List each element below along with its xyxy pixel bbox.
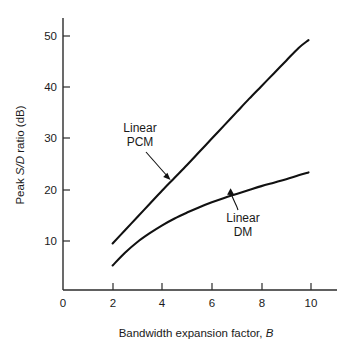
x-axis-title: Bandwidth expansion factor, B bbox=[119, 327, 274, 339]
y-axis-title-part1: Peak bbox=[14, 175, 26, 204]
y-tick-label-10: 10 bbox=[44, 235, 57, 247]
y-axis-title-italic: S/D bbox=[14, 156, 26, 175]
y-tick-label-50: 50 bbox=[44, 30, 57, 42]
x-tick-label-8: 8 bbox=[259, 297, 265, 309]
x-axis-title-italic: B bbox=[266, 327, 274, 339]
chart-figure: 50 40 30 20 10 0 2 4 6 8 10 Bandwidth ex… bbox=[0, 0, 353, 348]
y-axis-title: Peak S/D ratio (dB) bbox=[14, 105, 26, 204]
x-tick-label-4: 4 bbox=[159, 297, 166, 309]
x-tick-label-2: 2 bbox=[110, 297, 116, 309]
x-tick-label-0: 0 bbox=[60, 297, 66, 309]
x-tick-label-6: 6 bbox=[209, 297, 215, 309]
y-tick-label-40: 40 bbox=[44, 81, 57, 93]
linear-pcm-label-line1: Linear bbox=[123, 121, 156, 135]
linear-dm-label-line1: Linear bbox=[226, 211, 259, 225]
x-tick-label-10: 10 bbox=[305, 297, 318, 309]
y-tick-label-30: 30 bbox=[44, 132, 57, 144]
linear-pcm-label-line2: PCM bbox=[127, 135, 154, 149]
y-axis-title-part2: ratio (dB) bbox=[14, 105, 26, 156]
y-tick-label-20: 20 bbox=[44, 184, 57, 196]
x-axis-title-plain: Bandwidth expansion factor, bbox=[119, 327, 266, 339]
linear-dm-label-line2: DM bbox=[234, 225, 253, 239]
peak-sd-ratio-vs-bandwidth-expansion-chart: 50 40 30 20 10 0 2 4 6 8 10 Bandwidth ex… bbox=[0, 0, 353, 348]
